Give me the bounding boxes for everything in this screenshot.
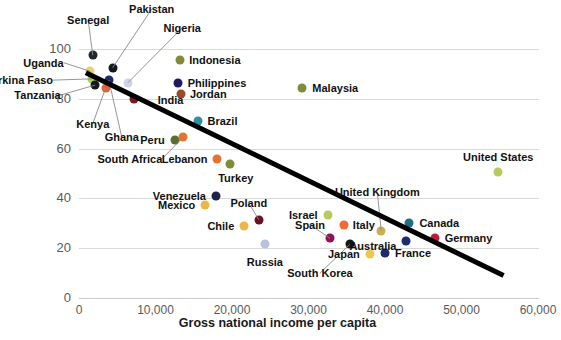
point-label-malaysia: Malaysia	[312, 82, 358, 93]
point-label-germany: Germany	[445, 233, 493, 244]
point-label-ghana: Ghana	[105, 132, 139, 143]
x-tick-label-0: 0	[39, 304, 119, 316]
data-point-pakistan[interactable]	[108, 63, 117, 72]
data-point-south-africa[interactable]	[179, 133, 188, 142]
x-tick-label-60000: 60,000	[498, 304, 561, 316]
point-label-mexico: Mexico	[158, 199, 195, 210]
data-point-poland[interactable]	[254, 215, 263, 224]
data-point-brazil[interactable]	[193, 117, 202, 126]
point-label-uganda: Uganda	[23, 57, 63, 68]
data-point-turkey[interactable]	[225, 159, 234, 168]
data-point-senegal[interactable]	[88, 51, 97, 60]
data-point-indonesia[interactable]	[175, 56, 184, 65]
point-label-senegal: Senegal	[67, 15, 109, 26]
y-tick-label-40: 40	[57, 191, 71, 204]
point-label-nigeria: Nigeria	[164, 22, 201, 33]
point-label-burkina-faso: Burkina Faso	[0, 75, 53, 86]
data-point-malaysia[interactable]	[298, 83, 307, 92]
data-point-tanzania[interactable]	[91, 81, 100, 90]
point-label-tanzania: Tanzania	[14, 90, 60, 101]
data-point-venezuela[interactable]	[211, 191, 220, 200]
point-label-united-kingdom: United Kingdom	[335, 187, 420, 198]
data-point-mexico[interactable]	[201, 200, 210, 209]
data-point-united-states[interactable]	[494, 168, 503, 177]
point-label-south-africa: South Africa	[97, 153, 162, 164]
x-tick-label-20000: 20,000	[192, 304, 272, 316]
point-label-turkey: Turkey	[218, 173, 253, 184]
point-label-canada: Canada	[419, 218, 459, 229]
y-tick-label-0: 0	[64, 291, 71, 304]
point-label-pakistan: Pakistan	[129, 4, 174, 15]
gridline-y-20	[79, 248, 539, 249]
point-label-poland: Poland	[230, 198, 267, 209]
point-label-south-korea: South Korea	[287, 268, 352, 279]
x-tick-label-30000: 30,000	[269, 304, 349, 316]
x-tick-label-40000: 40,000	[345, 304, 425, 316]
x-tick-label-10000: 10,000	[116, 304, 196, 316]
y-tick-label-100: 100	[49, 42, 71, 55]
data-point-india[interactable]	[130, 94, 139, 103]
y-tick-label-60: 60	[57, 142, 71, 155]
point-label-spain: Spain	[295, 219, 325, 230]
point-label-france: France	[395, 248, 431, 259]
data-point-germany[interactable]	[430, 234, 439, 243]
data-point-italy[interactable]	[339, 220, 348, 229]
point-label-lebanon: Lebanon	[162, 153, 208, 164]
gridline-y-100	[79, 49, 539, 50]
point-label-united-states: United States	[463, 152, 533, 163]
data-point-spain[interactable]	[325, 234, 334, 243]
gridline-y-40	[79, 198, 539, 199]
point-label-peru: Peru	[140, 134, 164, 145]
point-label-italy: Italy	[353, 219, 375, 230]
gridline-y-0	[79, 298, 539, 299]
gridline-y-80	[79, 99, 539, 100]
data-point-nigeria[interactable]	[123, 78, 132, 87]
data-point-philippines[interactable]	[174, 78, 183, 87]
y-tick-label-20: 20	[57, 241, 71, 254]
data-point-chile[interactable]	[240, 221, 249, 230]
data-point-lebanon[interactable]	[212, 154, 221, 163]
point-label-indonesia: Indonesia	[189, 55, 240, 66]
point-label-kenya: Kenya	[76, 118, 109, 129]
point-label-chile: Chile	[207, 220, 234, 231]
gridline-y-60	[79, 149, 539, 150]
point-label-brazil: Brazil	[208, 116, 238, 127]
point-label-india: India	[158, 95, 184, 106]
data-point-japan[interactable]	[365, 250, 374, 259]
data-point-canada[interactable]	[405, 219, 414, 228]
point-label-jordan: Jordan	[190, 88, 227, 99]
data-point-australia[interactable]	[402, 236, 411, 245]
data-point-united-kingdom[interactable]	[377, 226, 386, 235]
point-label-russia: Russia	[247, 256, 283, 267]
data-point-ghana[interactable]	[104, 76, 113, 85]
data-point-russia[interactable]	[260, 240, 269, 249]
x-axis-title: Gross national income per capita	[0, 316, 555, 330]
point-label-japan: Japan	[328, 249, 360, 260]
x-tick-label-50000: 50,000	[422, 304, 502, 316]
